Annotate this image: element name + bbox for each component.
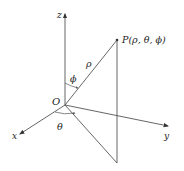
x-axis-label: x — [12, 131, 17, 141]
rho-label: ρ — [85, 58, 92, 69]
spherical-coordinates-diagram: z x y O P(ρ, θ, ϕ) ρ ϕ θ — [0, 0, 184, 171]
phi-label: ϕ — [70, 73, 77, 84]
point-p-marker — [116, 39, 119, 42]
point-p-label: P(ρ, θ, ϕ) — [121, 34, 166, 45]
z-axis-label: z — [56, 10, 62, 20]
origin-label: O — [52, 96, 60, 107]
y-axis-label: y — [163, 131, 170, 141]
theta-label: θ — [57, 121, 63, 132]
